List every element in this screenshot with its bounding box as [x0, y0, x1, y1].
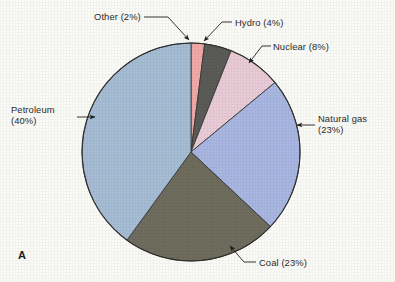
slice-label-natural-gas: Natural gas(23%) [318, 113, 367, 136]
leader-line-nuclear [249, 46, 271, 63]
slice-label-nuclear: Nuclear (8%) [273, 41, 329, 52]
pie-chart-figure: Petroleum(40%) Other (2%) Hydro (4%) Nuc… [0, 0, 395, 282]
slice-label-natural-gas-value: (23%) [318, 124, 344, 135]
leader-line-other [144, 17, 189, 40]
slice-label-hydro: Hydro (4%) [235, 17, 283, 28]
slice-label-petroleum: Petroleum(40%) [11, 104, 55, 127]
figure-letter-label: A [18, 249, 26, 261]
slice-label-coal: Coal (23%) [259, 257, 307, 268]
slice-label-petroleum-name: Petroleum [11, 104, 55, 115]
slice-label-petroleum-value: (40%) [11, 115, 37, 126]
pie-chart-svg [0, 0, 395, 282]
slice-label-other: Other (2%) [94, 11, 141, 22]
leader-line-hydro [204, 22, 232, 41]
pie-slices [82, 43, 300, 261]
slice-label-natural-gas-name: Natural gas [318, 113, 367, 124]
